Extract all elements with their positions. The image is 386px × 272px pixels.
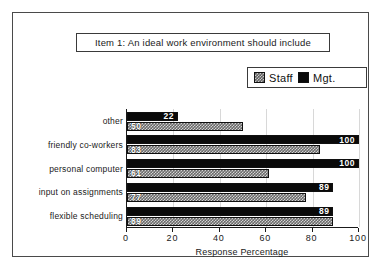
x-axis-title: Response Percentage — [126, 247, 358, 257]
category-label: input on assignments — [31, 187, 123, 197]
bar-staff: 61 — [127, 169, 269, 178]
bar-mgt: 89 — [127, 207, 333, 216]
x-tick — [172, 228, 173, 232]
x-tick — [312, 228, 313, 232]
chart-title-box: Item 1: An ideal work environment should… — [76, 33, 330, 52]
category-label: other — [31, 116, 123, 126]
bar-value-label: 22 — [161, 112, 177, 121]
legend-label-staff: Staff — [269, 72, 293, 84]
page-title: Item 1: An ideal work environment should… — [95, 37, 311, 48]
bar-value-label: 89 — [316, 183, 332, 192]
gridline — [359, 109, 360, 227]
legend-swatch-staff-icon — [254, 72, 265, 83]
bar-group: 8989 — [127, 205, 358, 229]
bar-value-label: 100 — [336, 136, 358, 145]
bar-group: 8977 — [127, 181, 358, 205]
bar-groups: 2250100831006189778989 — [127, 109, 358, 227]
legend-entry-staff: Staff — [254, 72, 293, 84]
x-tick-label: 20 — [167, 233, 179, 243]
x-tick-label: 40 — [213, 233, 225, 243]
bar-value-label: 100 — [336, 159, 358, 168]
x-axis-tick-labels: 020406080100 — [126, 233, 358, 245]
x-tick-label: 0 — [123, 233, 129, 243]
bar-staff: 83 — [127, 145, 320, 154]
category-axis-labels: otherfriendly co-workerspersonal compute… — [31, 109, 123, 228]
legend-swatch-mgt-icon — [298, 72, 309, 83]
x-tick-label: 80 — [306, 233, 318, 243]
legend-label-mgt: Mgt. — [313, 72, 336, 84]
bar-staff: 77 — [127, 193, 306, 202]
bar-mgt: 89 — [127, 183, 333, 192]
x-tick — [126, 228, 127, 232]
bar-group: 10061 — [127, 158, 358, 182]
x-tick-label: 100 — [349, 233, 366, 243]
bar-staff: 50 — [127, 122, 243, 131]
category-label: flexible scheduling — [31, 211, 123, 221]
bar-mgt: 100 — [127, 135, 359, 144]
bar-mgt: 22 — [127, 112, 178, 121]
x-tick — [265, 228, 266, 232]
x-tick-label: 60 — [259, 233, 271, 243]
bar-value-label: 77 — [128, 193, 144, 202]
bar-value-label: 89 — [316, 207, 332, 216]
bar-value-label: 89 — [128, 217, 144, 226]
chart-frame: Item 1: An ideal work environment should… — [12, 12, 369, 257]
plot-area-wrapper: 2250100831006189778989 — [126, 109, 358, 228]
bar-value-label: 61 — [128, 169, 144, 178]
bar-staff: 89 — [127, 217, 333, 226]
chart-legend: Staff Mgt. — [247, 67, 367, 88]
legend-entry-mgt: Mgt. — [298, 72, 336, 84]
bar-value-label: 50 — [128, 122, 144, 131]
bar-mgt: 100 — [127, 159, 359, 168]
plot-area: 2250100831006189778989 — [126, 109, 358, 228]
bar-group: 10083 — [127, 134, 358, 158]
bar-group: 2250 — [127, 110, 358, 134]
x-tick — [358, 228, 359, 232]
x-tick — [219, 228, 220, 232]
bar-value-label: 83 — [128, 146, 144, 155]
category-label: friendly co-workers — [31, 140, 123, 150]
category-label: personal computer — [31, 164, 123, 174]
